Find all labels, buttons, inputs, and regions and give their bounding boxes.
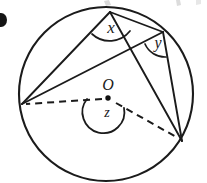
radius-center-to-left xyxy=(26,99,102,104)
geometry-figure: x y O z xyxy=(0,0,207,183)
angle-label-z: z xyxy=(103,105,110,120)
radius-center-to-bottomright xyxy=(116,103,178,138)
chord-top-to-left xyxy=(22,12,110,104)
circle-outline xyxy=(19,7,193,181)
circle-theorem-diagram: x y O z xyxy=(0,0,207,183)
angle-label-y: y xyxy=(152,34,162,52)
center-point-dot xyxy=(105,95,110,100)
top-edge-artifact xyxy=(104,0,201,6)
center-label-o: O xyxy=(102,76,114,93)
bullet-marker-icon xyxy=(0,13,7,27)
angle-label-x: x xyxy=(106,18,115,37)
